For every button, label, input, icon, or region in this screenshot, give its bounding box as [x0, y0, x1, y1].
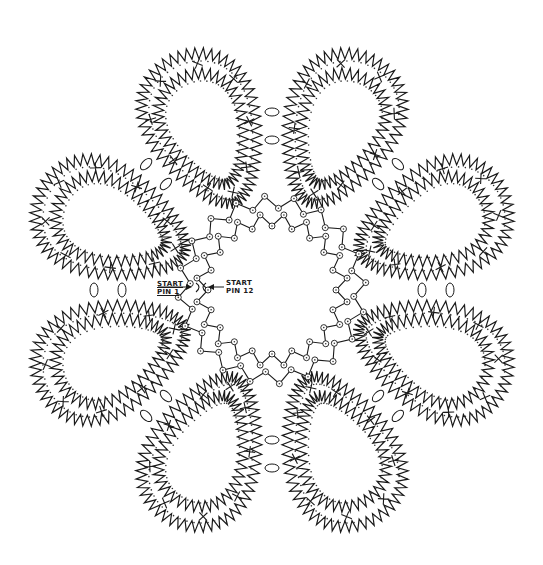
- pin-hole: [375, 488, 377, 490]
- pin-hole: [317, 405, 319, 407]
- pin-hole: [453, 399, 455, 401]
- pin-hole: [248, 409, 250, 411]
- pin-hole: [159, 143, 161, 145]
- pin-hole: [325, 235, 327, 237]
- cross-stitch-icon: [290, 454, 300, 464]
- cross-stroke: [41, 217, 49, 225]
- pin-hole: [353, 501, 355, 503]
- pin-hole: [407, 269, 409, 271]
- pin-hole: [237, 221, 239, 223]
- cross-stitch-icon: [54, 177, 64, 187]
- pin-hole: [320, 180, 322, 182]
- pin-hole: [172, 322, 174, 324]
- pin-hole: [381, 471, 383, 473]
- pin-hole: [169, 131, 171, 133]
- petal-inner-zigzag: [153, 390, 249, 512]
- pin-hole: [474, 262, 476, 264]
- pin-hole: [200, 80, 202, 82]
- pin-hole: [194, 420, 196, 422]
- pin-hole: [406, 314, 408, 316]
- cross-stroke: [155, 76, 166, 87]
- pin-hole: [387, 143, 389, 145]
- pin-hole: [339, 190, 341, 192]
- pin-hole: [127, 195, 129, 197]
- pin-hole: [303, 213, 305, 215]
- pin-hole: [93, 183, 95, 185]
- pin-hole: [152, 382, 154, 384]
- pin-hole: [105, 313, 107, 315]
- pin-hole: [62, 358, 64, 360]
- cross-stitch-icon: [337, 59, 345, 67]
- pin-hole: [69, 411, 71, 413]
- pin-hole: [335, 289, 337, 291]
- pin-hole: [483, 352, 485, 354]
- pin-hole: [492, 333, 494, 335]
- pin-hole: [66, 236, 68, 238]
- pin-hole: [96, 268, 98, 270]
- cross-stroke: [402, 388, 413, 399]
- pin-hole: [230, 405, 232, 407]
- pin-hole: [326, 403, 328, 405]
- cross-stroke: [475, 173, 486, 184]
- pin-hole: [65, 324, 67, 326]
- pin-hole: [385, 506, 387, 508]
- pin-hole: [321, 68, 323, 70]
- pin-hole: [470, 393, 472, 395]
- pin-hole: [178, 326, 180, 328]
- petal-3: [353, 300, 514, 426]
- pin-hole: [459, 398, 461, 400]
- pin-hole: [423, 312, 425, 314]
- pin-hole: [359, 83, 361, 85]
- pin-hole: [167, 263, 169, 265]
- pin-hole: [252, 441, 254, 443]
- pin-hole: [167, 72, 169, 74]
- pin-hole: [181, 337, 183, 339]
- pin-hole: [353, 420, 355, 422]
- start-pin-1-label: START PIN 1: [157, 280, 183, 296]
- pin-hole: [162, 244, 164, 246]
- pin-hole: [346, 522, 348, 524]
- pin-hole: [296, 425, 298, 427]
- pin-hole: [453, 183, 455, 185]
- pin-hole: [484, 365, 486, 367]
- pin-hole: [180, 341, 182, 343]
- pin-hole: [317, 178, 319, 180]
- pin-hole: [234, 341, 236, 343]
- pin-hole: [80, 334, 82, 336]
- petal-5: [136, 371, 262, 532]
- pin-hole: [181, 245, 183, 247]
- pin-hole: [335, 407, 337, 409]
- pin-hole: [328, 386, 330, 388]
- pin-hole: [161, 506, 163, 508]
- pin-hole: [346, 60, 348, 62]
- cross-stroke: [164, 420, 175, 431]
- pin-hole: [374, 138, 376, 140]
- pin-hole: [237, 159, 239, 161]
- pin-hole: [319, 384, 321, 386]
- pin-hole: [200, 415, 202, 417]
- pin-hole: [444, 415, 446, 417]
- pin-hole: [477, 342, 479, 344]
- pin-hole: [300, 179, 302, 181]
- pin-hole: [504, 357, 506, 359]
- cross-stroke: [370, 149, 381, 160]
- pin-hole: [366, 245, 368, 247]
- pin-hole: [367, 64, 369, 66]
- pin-hole: [358, 176, 360, 178]
- pin-hole: [80, 249, 82, 251]
- pin-hole: [371, 164, 373, 166]
- pin-hole: [364, 412, 366, 414]
- pin-hole: [383, 370, 385, 372]
- pin-hole: [306, 357, 308, 359]
- pin-hole: [387, 348, 389, 350]
- pin-hole: [458, 416, 460, 418]
- pin-hole: [226, 180, 228, 182]
- pin-hole: [210, 269, 212, 271]
- pin-hole: [165, 112, 167, 114]
- pin-hole: [367, 341, 369, 343]
- pin-hole: [148, 268, 150, 270]
- pin-hole: [474, 388, 476, 390]
- pin-hole: [113, 396, 115, 398]
- pin-hole: [235, 417, 237, 419]
- pin-hole: [54, 398, 56, 400]
